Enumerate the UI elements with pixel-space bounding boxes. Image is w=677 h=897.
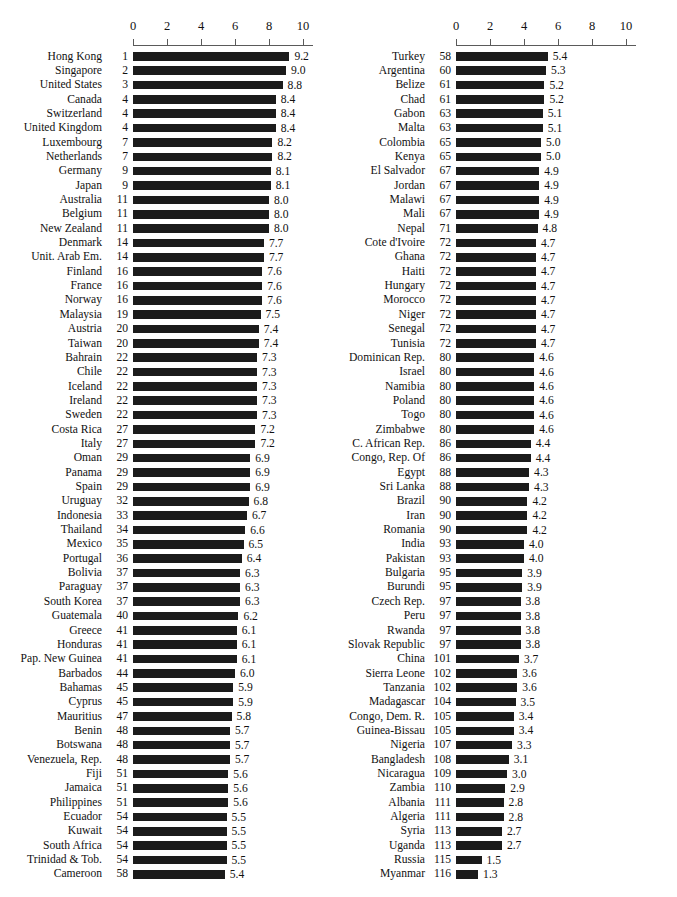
row-bar[interactable] bbox=[456, 325, 536, 334]
bar-row[interactable]: C. African Rep.864.4 bbox=[323, 437, 653, 451]
row-bar[interactable] bbox=[456, 483, 529, 492]
bar-row[interactable]: Malta635.1 bbox=[323, 121, 653, 135]
row-bar[interactable] bbox=[133, 454, 250, 463]
row-bar[interactable] bbox=[133, 526, 245, 535]
row-bar[interactable] bbox=[456, 153, 541, 162]
row-bar[interactable] bbox=[456, 210, 539, 219]
row-bar[interactable] bbox=[456, 440, 531, 449]
bar-row[interactable]: Ghana724.7 bbox=[323, 250, 653, 264]
bar-row[interactable]: Jordan674.9 bbox=[323, 179, 653, 193]
row-bar[interactable] bbox=[456, 727, 514, 736]
row-bar[interactable] bbox=[456, 239, 536, 248]
row-bar[interactable] bbox=[133, 511, 247, 520]
bar-row[interactable]: Dominican Rep.804.6 bbox=[323, 351, 653, 365]
bar-row[interactable]: Tunisia724.7 bbox=[323, 337, 653, 351]
row-bar[interactable] bbox=[456, 597, 521, 606]
row-bar[interactable] bbox=[456, 698, 516, 707]
row-bar[interactable] bbox=[456, 368, 534, 377]
bar-row[interactable]: Kenya655.0 bbox=[323, 150, 653, 164]
row-bar[interactable] bbox=[133, 440, 255, 449]
bar-row[interactable]: Cote d'Ivoire724.7 bbox=[323, 236, 653, 250]
row-bar[interactable] bbox=[133, 267, 262, 276]
row-bar[interactable] bbox=[133, 497, 249, 506]
row-bar[interactable] bbox=[133, 425, 255, 434]
bar-row[interactable]: Zambia1102.9 bbox=[323, 781, 653, 795]
row-bar[interactable] bbox=[133, 468, 250, 477]
row-bar[interactable] bbox=[456, 196, 539, 205]
row-bar[interactable] bbox=[133, 712, 232, 721]
bar-row[interactable]: Poland804.6 bbox=[323, 394, 653, 408]
row-bar[interactable] bbox=[456, 712, 514, 721]
row-bar[interactable] bbox=[133, 224, 269, 233]
bar-row[interactable]: Bangladesh1083.1 bbox=[323, 753, 653, 767]
bar-row[interactable]: Israel804.6 bbox=[323, 365, 653, 379]
row-bar[interactable] bbox=[133, 210, 269, 219]
row-bar[interactable] bbox=[133, 540, 244, 549]
row-bar[interactable] bbox=[456, 52, 548, 61]
bar-row[interactable]: Romania904.2 bbox=[323, 523, 653, 537]
row-bar[interactable] bbox=[456, 526, 527, 535]
bar-row[interactable]: Russia1151.5 bbox=[323, 853, 653, 867]
row-bar[interactable] bbox=[133, 798, 228, 807]
bar-row[interactable]: Brazil904.2 bbox=[323, 494, 653, 508]
bar-row[interactable]: Nepal714.8 bbox=[323, 222, 653, 236]
row-bar[interactable] bbox=[133, 368, 257, 377]
bar-row[interactable]: Peru973.8 bbox=[323, 609, 653, 623]
row-bar[interactable] bbox=[133, 727, 230, 736]
row-bar[interactable] bbox=[133, 813, 227, 822]
row-bar[interactable] bbox=[456, 612, 521, 621]
bar-row[interactable]: Egypt884.3 bbox=[323, 466, 653, 480]
row-bar[interactable] bbox=[133, 856, 227, 865]
row-bar[interactable] bbox=[456, 66, 546, 75]
row-bar[interactable] bbox=[133, 138, 272, 147]
bar-row[interactable]: Sri Lanka884.3 bbox=[323, 480, 653, 494]
row-bar[interactable] bbox=[133, 583, 240, 592]
bar-row[interactable]: Tanzania1023.6 bbox=[323, 681, 653, 695]
row-bar[interactable] bbox=[133, 597, 240, 606]
bar-row[interactable]: Rwanda973.8 bbox=[323, 624, 653, 638]
row-bar[interactable] bbox=[456, 798, 504, 807]
bar-row[interactable]: Algeria1112.8 bbox=[323, 810, 653, 824]
row-bar[interactable] bbox=[133, 683, 233, 692]
bar-row[interactable]: Sierra Leone1023.6 bbox=[323, 667, 653, 681]
bar-row[interactable]: Colombia655.0 bbox=[323, 136, 653, 150]
row-bar[interactable] bbox=[133, 167, 271, 176]
row-bar[interactable] bbox=[133, 755, 230, 764]
row-bar[interactable] bbox=[133, 382, 257, 391]
row-bar[interactable] bbox=[456, 626, 521, 635]
row-bar[interactable] bbox=[456, 310, 536, 319]
bar-row[interactable]: Morocco724.7 bbox=[323, 293, 653, 307]
bar-row[interactable]: Madagascar1043.5 bbox=[323, 695, 653, 709]
row-bar[interactable] bbox=[456, 813, 504, 822]
row-bar[interactable] bbox=[133, 784, 228, 793]
row-bar[interactable] bbox=[456, 138, 541, 147]
bar-row[interactable]: Hungary724.7 bbox=[323, 279, 653, 293]
row-bar[interactable] bbox=[456, 554, 524, 563]
row-bar[interactable] bbox=[456, 339, 536, 348]
row-bar[interactable] bbox=[456, 109, 543, 118]
row-bar[interactable] bbox=[456, 224, 538, 233]
row-bar[interactable] bbox=[133, 296, 262, 305]
bar-row[interactable]: Turkey585.4 bbox=[323, 50, 653, 64]
row-bar[interactable] bbox=[133, 669, 235, 678]
row-bar[interactable] bbox=[133, 827, 227, 836]
bar-row[interactable]: Iran904.2 bbox=[323, 509, 653, 523]
row-bar[interactable] bbox=[456, 296, 536, 305]
row-bar[interactable] bbox=[456, 870, 478, 879]
row-bar[interactable] bbox=[456, 497, 527, 506]
bar-row[interactable]: Congo, Dem. R.1053.4 bbox=[323, 710, 653, 724]
row-bar[interactable] bbox=[133, 626, 237, 635]
row-bar[interactable] bbox=[133, 282, 262, 291]
bar-row[interactable]: Niger724.7 bbox=[323, 308, 653, 322]
row-bar[interactable] bbox=[456, 741, 512, 750]
row-bar[interactable] bbox=[456, 425, 534, 434]
bar-row[interactable]: Senegal724.7 bbox=[323, 322, 653, 336]
bar-row[interactable]: Guinea-Bissau1053.4 bbox=[323, 724, 653, 738]
row-bar[interactable] bbox=[456, 827, 502, 836]
row-bar[interactable] bbox=[133, 483, 250, 492]
row-bar[interactable] bbox=[456, 841, 502, 850]
row-bar[interactable] bbox=[133, 554, 242, 563]
row-bar[interactable] bbox=[133, 196, 269, 205]
row-bar[interactable] bbox=[456, 454, 531, 463]
row-bar[interactable] bbox=[456, 282, 536, 291]
